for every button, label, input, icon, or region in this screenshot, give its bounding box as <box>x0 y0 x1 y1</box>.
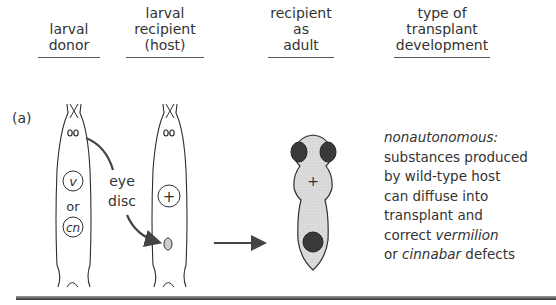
term-cinnabar: cinnabar <box>402 246 461 262</box>
posterior-spiracle-icon <box>67 283 78 288</box>
adult-eye-left <box>291 142 307 162</box>
description-line: or cinnabar defects <box>384 245 554 265</box>
or-label: or <box>66 199 80 214</box>
adult-fly: + <box>291 135 336 270</box>
eye-disc-label-2: disc <box>108 193 136 209</box>
mouth-hooks-icon <box>166 104 174 118</box>
adult-transplant-eye <box>303 232 323 252</box>
term-vermilion: vermilion <box>436 227 499 243</box>
description-line: by wild-type host <box>384 167 554 187</box>
host-larva: + <box>152 104 187 287</box>
bottom-divider <box>16 296 556 300</box>
eye-disc-icon <box>170 130 174 136</box>
description-line: correct vermilion <box>384 226 554 246</box>
adult-genotype-plus: + <box>307 173 319 189</box>
text: correct <box>384 227 436 243</box>
development-description: nonautonomous: substances produced by wi… <box>384 128 554 265</box>
text: or <box>384 246 402 262</box>
transplanted-disc <box>164 238 172 250</box>
transfer-arrow-lower <box>127 215 158 242</box>
eye-disc-icon <box>164 130 168 136</box>
donor-larva: v or cn <box>56 104 91 287</box>
genotype-plus: + <box>163 188 176 206</box>
genotype-cn: cn <box>66 221 80 235</box>
eye-disc-label-1: eye <box>109 173 135 189</box>
text: defects <box>461 246 515 262</box>
eye-disc-icon <box>74 130 78 136</box>
description-line: can diffuse into <box>384 187 554 207</box>
mouth-hooks-icon <box>70 104 78 118</box>
description-title: nonautonomous: <box>384 128 554 148</box>
description-line: substances produced <box>384 148 554 168</box>
eye-disc-icon <box>68 130 72 136</box>
description-line: transplant and <box>384 206 554 226</box>
adult-eye-right <box>320 142 336 162</box>
posterior-spiracle-icon <box>163 283 174 288</box>
genotype-v: v <box>69 174 77 189</box>
